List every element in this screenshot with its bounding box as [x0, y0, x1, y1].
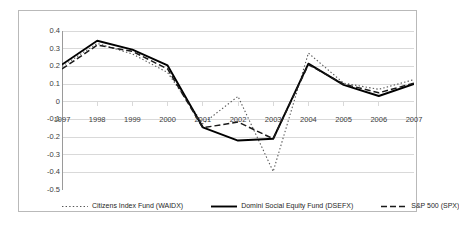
- x-tick-label: 2004: [300, 115, 317, 125]
- legend-item[interactable]: S&P 500 (SPX): [381, 202, 459, 210]
- y-tick-label: -0.3: [47, 151, 60, 159]
- x-tick-label: 2001: [194, 115, 211, 125]
- y-tick-label: -0.4: [47, 168, 60, 176]
- chart-legend: Citizens Index Fund (WAIDX)Domini Social…: [62, 199, 422, 213]
- y-tick-label: 0.4: [50, 27, 60, 35]
- legend-line-swatch: [211, 203, 237, 210]
- legend-line-swatch: [381, 203, 407, 210]
- y-tick-label: 0.1: [50, 80, 60, 88]
- legend-line-swatch: [62, 203, 88, 210]
- y-tick-label: 0.2: [50, 62, 60, 70]
- legend-label: Domini Social Equity Fund (DSEFX): [241, 202, 353, 210]
- plot-area: [62, 31, 414, 190]
- x-tick-label: 2007: [406, 115, 423, 125]
- x-tick-label: 1999: [124, 115, 141, 125]
- y-tick-label: 0.3: [50, 45, 60, 53]
- legend-label: S&P 500 (SPX): [411, 202, 459, 210]
- y-axis-tick-labels: 0.40.30.20.10-0.1-0.2-0.3-0.4-0.5: [37, 31, 60, 190]
- x-tick-label: 2003: [265, 115, 282, 125]
- x-tick-label: 1997: [54, 115, 71, 125]
- y-tick-label: 0: [56, 98, 60, 106]
- series-line: [62, 43, 414, 171]
- x-tick-label: 2006: [370, 115, 387, 125]
- x-tick-label: 2002: [230, 115, 247, 125]
- legend-label: Citizens Index Fund (WAIDX): [92, 202, 183, 210]
- x-tick-label: 1998: [89, 115, 106, 125]
- x-axis-tick-labels: 1997199819992000200120022003200420052006…: [62, 115, 414, 127]
- y-tick-label: -0.5: [47, 186, 60, 194]
- legend-item[interactable]: Domini Social Equity Fund (DSEFX): [211, 202, 353, 210]
- series-lines: [62, 31, 414, 190]
- chart-frame: 0.40.30.20.10-0.1-0.2-0.3-0.4-0.5 199719…: [18, 10, 417, 212]
- legend-item[interactable]: Citizens Index Fund (WAIDX): [62, 202, 183, 210]
- y-tick-label: -0.2: [47, 133, 60, 141]
- x-tick-label: 2000: [159, 115, 176, 125]
- x-tick-label: 2005: [335, 115, 352, 125]
